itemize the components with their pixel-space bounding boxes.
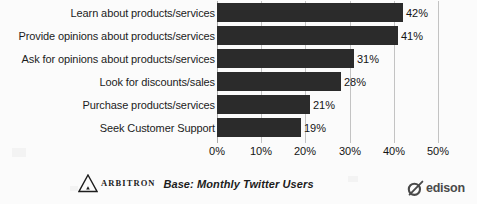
- bar-value-label: 41%: [401, 30, 423, 42]
- bar: [217, 118, 301, 137]
- x-tick-label: 20%: [294, 145, 316, 158]
- bar-chart: Learn about products/services 42% Provid…: [0, 0, 477, 204]
- edison-circle-icon: [406, 180, 425, 197]
- bar: [217, 3, 403, 22]
- category-label: Ask for opinions about products/services: [22, 53, 216, 65]
- x-tick-label: 50%: [427, 145, 449, 158]
- bar-row: Ask for opinions about products/services…: [0, 49, 477, 68]
- bar: [217, 72, 341, 91]
- x-tick-label: 30%: [339, 145, 361, 158]
- bar-value-label: 42%: [406, 7, 428, 19]
- bar-value-label: 19%: [304, 122, 326, 134]
- category-label: Learn about products/services: [71, 7, 215, 19]
- scan-artifact: [12, 148, 26, 157]
- scan-artifact: [70, 186, 78, 191]
- bar-row: Seek Customer Support 19%: [0, 118, 477, 137]
- scan-artifact: [348, 176, 358, 182]
- bar-row: Provide opinions about products/services…: [0, 26, 477, 45]
- edison-logo: edison: [406, 180, 465, 197]
- bar-row: Look for discounts/sales 28%: [0, 72, 477, 91]
- bar-row: Learn about products/services 42%: [0, 3, 477, 22]
- bar-row: Purchase products/services 21%: [0, 95, 477, 114]
- x-tick-label: 0%: [209, 145, 225, 158]
- plot-area: Learn about products/services 42% Provid…: [0, 0, 477, 148]
- bar: [217, 49, 354, 68]
- bar: [217, 26, 398, 45]
- bar-value-label: 31%: [357, 53, 379, 65]
- x-tick-label: 40%: [383, 145, 405, 158]
- bar-value-label: 28%: [344, 76, 366, 88]
- edison-wordmark: edison: [426, 182, 465, 195]
- x-tick-label: 10%: [250, 145, 272, 158]
- category-label: Look for discounts/sales: [99, 76, 215, 88]
- bar-value-label: 21%: [313, 99, 335, 111]
- x-axis: 0% 10% 20% 30% 40% 50%: [0, 143, 477, 161]
- category-label: Seek Customer Support: [100, 122, 215, 134]
- category-label: Purchase products/services: [82, 99, 215, 111]
- bar: [217, 95, 310, 114]
- category-label: Provide opinions about products/services: [18, 30, 215, 42]
